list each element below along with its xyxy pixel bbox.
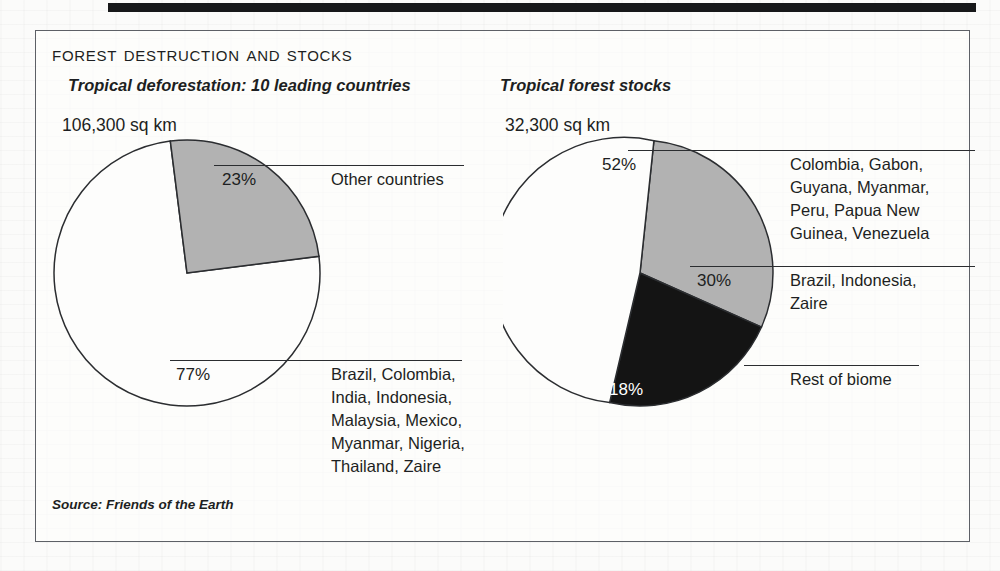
right-legend-black-line-1: Brazil, Indonesia, (790, 269, 917, 292)
figure-source: Source: Friends of the Earth (52, 497, 234, 512)
left-pct-gray: 23% (222, 170, 256, 190)
right-leader-line-black (744, 365, 919, 366)
left-legend-white: Brazil, Colombia, India, Indonesia, Mala… (331, 363, 465, 478)
left-leader-line-gray (214, 165, 464, 166)
right-legend-black-line-2: Zaire (790, 292, 917, 315)
right-leader-line-white (628, 150, 975, 151)
left-legend-gray: Other countries (331, 168, 444, 191)
figure-page: Forest Destruction and Stocks Tropical d… (0, 0, 1000, 571)
top-black-rule (108, 3, 976, 12)
left-legend-white-line-3: Malaysia, Mexico, (331, 409, 465, 432)
right-pie-chart (503, 136, 777, 410)
right-legend-white-line: Rest of biome (790, 368, 892, 391)
right-pct-black: 18% (609, 380, 643, 400)
right-legend-gray-line-3: Peru, Papua New (790, 199, 929, 222)
left-pie-slice-gray (170, 136, 319, 273)
right-legend-black: Brazil, Indonesia, Zaire (790, 269, 917, 315)
right-legend-gray-line-2: Guyana, Myanmar, (790, 176, 929, 199)
left-panel-total: 106,300 sq km (62, 115, 177, 136)
right-legend-gray-line-4: Guinea, Venezuela (790, 222, 929, 245)
right-panel-subtitle: Tropical forest stocks (500, 76, 671, 95)
left-leader-line-white (170, 360, 462, 361)
right-panel-total: 32,300 sq km (505, 115, 610, 136)
left-legend-white-line-1: Brazil, Colombia, (331, 363, 465, 386)
left-legend-gray-line: Other countries (331, 168, 444, 191)
figure-title: Forest Destruction and Stocks (52, 42, 352, 67)
right-legend-white: Rest of biome (790, 368, 892, 391)
right-pct-gray: 30% (697, 271, 731, 291)
right-leader-line-gray (690, 266, 975, 267)
right-pct-white: 52% (602, 155, 636, 175)
right-legend-gray-line-1: Colombia, Gabon, (790, 153, 929, 176)
left-panel-subtitle: Tropical deforestation: 10 leading count… (68, 76, 411, 95)
left-legend-white-line-2: India, Indonesia, (331, 386, 465, 409)
left-legend-white-line-4: Myanmar, Nigeria, (331, 432, 465, 455)
right-legend-gray: Colombia, Gabon, Guyana, Myanmar, Peru, … (790, 153, 929, 245)
left-legend-white-line-5: Thailand, Zaire (331, 455, 465, 478)
left-pct-white: 77% (176, 365, 210, 385)
